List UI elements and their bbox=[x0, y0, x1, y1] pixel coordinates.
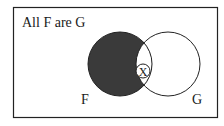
label-f: F bbox=[81, 92, 89, 107]
diagram-title: All F are G bbox=[22, 15, 85, 30]
label-g: G bbox=[192, 92, 202, 107]
venn-diagram: X All F are G F G bbox=[0, 0, 224, 126]
x-marker: X bbox=[139, 65, 148, 79]
